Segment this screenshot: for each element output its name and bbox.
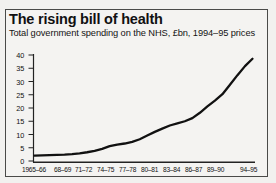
chart-axes (29, 54, 256, 163)
y-axis-tick-label: 30 (10, 78, 24, 87)
x-axis-tick-label: 77–78 (119, 166, 136, 173)
series-line-nhs-spending (35, 59, 253, 156)
x-axis-tick-label: 1965–66 (22, 166, 46, 173)
x-axis-tick-label: 94–95 (240, 166, 257, 173)
chart-figure: The rising bill of health Total governme… (0, 0, 276, 183)
y-axis-tick-label: 25 (10, 91, 24, 100)
x-axis-tick-label: 86–87 (185, 166, 202, 173)
y-axis-tick-label: 20 (10, 104, 24, 113)
y-axis-tick-label: 40 (10, 51, 24, 60)
y-axis-tick-label: 15 (10, 117, 24, 126)
line-chart-plot (0, 0, 276, 183)
y-axis-tick-label: 35 (10, 64, 24, 73)
x-axis-tick-label: 71–72 (75, 166, 92, 173)
y-axis-tick-label: 0 (10, 157, 24, 166)
y-axis-ticks (29, 55, 34, 161)
x-axis-tick-label: 89–90 (207, 166, 224, 173)
y-axis-tick-label: 10 (10, 131, 24, 140)
data-series-group (35, 59, 253, 156)
x-axis-tick-label: 83–84 (163, 166, 180, 173)
y-axis-tick-label: 5 (10, 144, 24, 153)
x-axis-tick-label: 74–75 (97, 166, 114, 173)
x-axis-tick-label: 68–69 (54, 166, 71, 173)
x-axis-tick-label: 80–81 (141, 166, 158, 173)
